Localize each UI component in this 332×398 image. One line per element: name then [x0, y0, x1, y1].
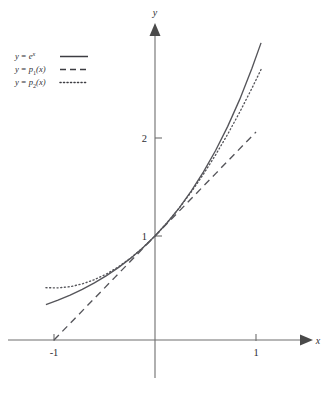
- legend-exp-eq: =: [21, 51, 26, 61]
- x-axis-arrowhead: [300, 335, 313, 346]
- legend-exp-lhs: y: [14, 51, 19, 61]
- curve-p2-quadratic: [46, 70, 261, 288]
- legend-label-p1: y=p1(x): [14, 64, 46, 76]
- legend-p2-arg: (x): [36, 77, 46, 87]
- legend-exp-sup: x: [32, 50, 36, 57]
- legend-label-p2: y=p2(x): [14, 77, 46, 89]
- legend-p1-lhs: y: [14, 64, 19, 74]
- y-tick-label-1: 1: [142, 231, 147, 242]
- legend-entry-exp: y=ex: [14, 50, 88, 61]
- y-tick-label-2: 2: [142, 133, 147, 144]
- legend-entry-p1: y=p1(x): [14, 64, 88, 76]
- curves-group: [46, 43, 261, 340]
- legend-p2-lhs: y: [14, 77, 19, 87]
- legend-p1-eq: =: [21, 64, 26, 74]
- legend-entry-p2: y=p2(x): [14, 77, 88, 89]
- x-axis-label: x: [315, 335, 321, 346]
- legend-p1-arg: (x): [36, 64, 46, 74]
- plot-canvas: x y -1 1 1 2 y=ex y=p1(x) y=p2(x: [0, 0, 332, 398]
- axes-group: [8, 23, 313, 378]
- legend-p2-eq: =: [21, 77, 26, 87]
- function-plot-figure: x y -1 1 1 2 y=ex y=p1(x) y=p2(x: [0, 0, 332, 398]
- x-tick-label-neg1: -1: [50, 347, 59, 358]
- legend: y=ex y=p1(x) y=p2(x): [14, 50, 88, 89]
- y-axis-label: y: [152, 7, 158, 18]
- y-axis-arrowhead: [150, 23, 161, 36]
- x-tick-label-1: 1: [253, 347, 258, 358]
- legend-label-exp: y=ex: [14, 50, 36, 61]
